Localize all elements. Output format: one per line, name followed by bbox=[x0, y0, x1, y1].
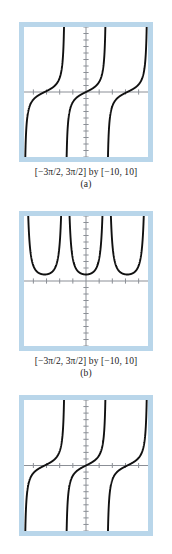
graph-secant-squared-b bbox=[24, 216, 148, 346]
figure-panel-c bbox=[0, 382, 172, 554]
panel-a-range-caption: [−3π/2, 3π/2] by [−10, 10] bbox=[0, 166, 172, 178]
curve-branch-2 bbox=[111, 216, 144, 275]
graph-tangent-c bbox=[24, 400, 148, 531]
calculator-screen-a bbox=[19, 22, 153, 162]
curve-branch-0 bbox=[28, 216, 61, 275]
calculator-screen-c bbox=[19, 395, 153, 536]
panel-b-letter: (b) bbox=[0, 367, 172, 379]
figure-stack: [−3π/2, 3π/2] by [−10, 10] (a) [−3π/2, 3… bbox=[0, 0, 172, 554]
panel-a-letter: (a) bbox=[0, 178, 172, 190]
figure-panel-b: [−3π/2, 3π/2] by [−10, 10] (b) bbox=[0, 196, 172, 382]
calculator-screen-b bbox=[19, 211, 153, 351]
figure-panel-a: [−3π/2, 3π/2] by [−10, 10] (a) bbox=[0, 0, 172, 196]
graph-tangent-a bbox=[24, 27, 148, 157]
panel-b-range-caption: [−3π/2, 3π/2] by [−10, 10] bbox=[0, 355, 172, 367]
